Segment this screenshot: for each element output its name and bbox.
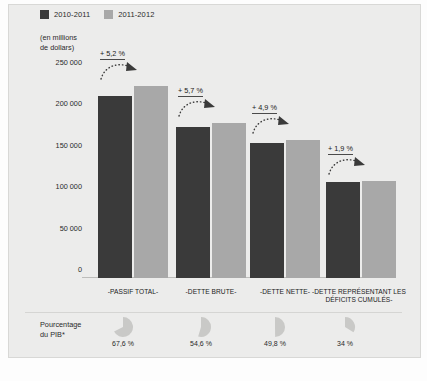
- y-axis-tick-label: 100 000: [56, 182, 82, 191]
- growth-arrow-icon: [251, 115, 291, 135]
- pib-pie-cell: 54,6 %: [161, 316, 241, 347]
- pib-label-line1: Pourcentage: [40, 320, 81, 330]
- y-axis-unit-line1: (en millions: [40, 33, 77, 43]
- pie-chart-icon: [112, 316, 134, 338]
- pib-percentage-value: 54,6 %: [161, 340, 241, 347]
- y-axis-tick-label: 50 000: [60, 223, 82, 232]
- growth-annotation-label: + 4,9 %: [252, 103, 277, 114]
- growth-annotation-label: + 1,9 %: [328, 144, 353, 155]
- pib-pie-cell: 49,8 %: [235, 316, 315, 347]
- pib-label-line2: du PIB*: [40, 330, 81, 340]
- legend-item-2011-2012: 2011-2012: [104, 10, 154, 19]
- legend-label-2011-2012: 2011-2012: [118, 10, 154, 19]
- chart-figure: 2010-2011 2011-2012 (en millions de doll…: [0, 0, 427, 381]
- growth-annotation-label: + 5,2 %: [100, 49, 125, 60]
- y-axis-tick-label: 0: [78, 265, 82, 274]
- y-axis-tick-label: 150 000: [56, 140, 82, 149]
- bar-group: [98, 71, 168, 278]
- bar-dark: [250, 143, 284, 278]
- pie-chart-icon: [190, 316, 212, 338]
- bar-dark: [176, 127, 210, 278]
- pib-separator: [25, 312, 402, 313]
- pib-pie-cell: 34 %: [305, 316, 385, 347]
- bar-light: [212, 123, 246, 278]
- bar-dark: [326, 182, 360, 278]
- growth-arrow-icon: [177, 98, 217, 118]
- growth-arrow-icon: [327, 156, 367, 176]
- growth-arrow-icon: [99, 61, 139, 81]
- plot-area: 050 000100 000150 000200 000250 000 + 5,…: [88, 71, 392, 278]
- bar-light: [134, 86, 168, 278]
- pib-percentage-value: 34 %: [305, 340, 385, 347]
- pib-percentage-value: 49,8 %: [235, 340, 315, 347]
- x-axis-category-label: -PASSIF TOTAL-: [88, 288, 178, 296]
- pib-percentage-value: 67,6 %: [83, 340, 163, 347]
- pie-chart-icon: [264, 316, 286, 338]
- legend-item-2010-2011: 2010-2011: [40, 10, 90, 19]
- pie-chart-icon: [334, 316, 356, 338]
- y-axis-tick-label: 200 000: [56, 99, 82, 108]
- y-axis-unit-line2: de dollars): [40, 43, 77, 53]
- y-axis-tick-label: 250 000: [56, 58, 82, 67]
- y-axis-unit-label: (en millions de dollars): [40, 33, 77, 52]
- bar-dark: [98, 96, 132, 278]
- chart-legend: 2010-2011 2011-2012: [40, 10, 154, 19]
- pib-pie-cell: 67,6 %: [83, 316, 163, 347]
- bar-light: [286, 140, 320, 278]
- legend-swatch-dark: [40, 10, 49, 19]
- pib-pie-row: 67,6 %54,6 %49,8 %34 %: [88, 316, 398, 356]
- bar-light: [362, 181, 396, 278]
- bar-group: [250, 71, 320, 278]
- pib-row-label: Pourcentage du PIB*: [40, 320, 81, 339]
- legend-label-2010-2011: 2010-2011: [54, 10, 90, 19]
- x-axis-category-labels: -PASSIF TOTAL--DETTE BRUTE--DETTE NETTE-…: [88, 288, 398, 314]
- growth-annotation-label: + 5,7 %: [178, 86, 203, 97]
- legend-swatch-light: [104, 10, 113, 19]
- x-axis-category-label: -DETTE REPRÉSENTANT LES DÉFICITS CUMULÉS…: [310, 288, 408, 305]
